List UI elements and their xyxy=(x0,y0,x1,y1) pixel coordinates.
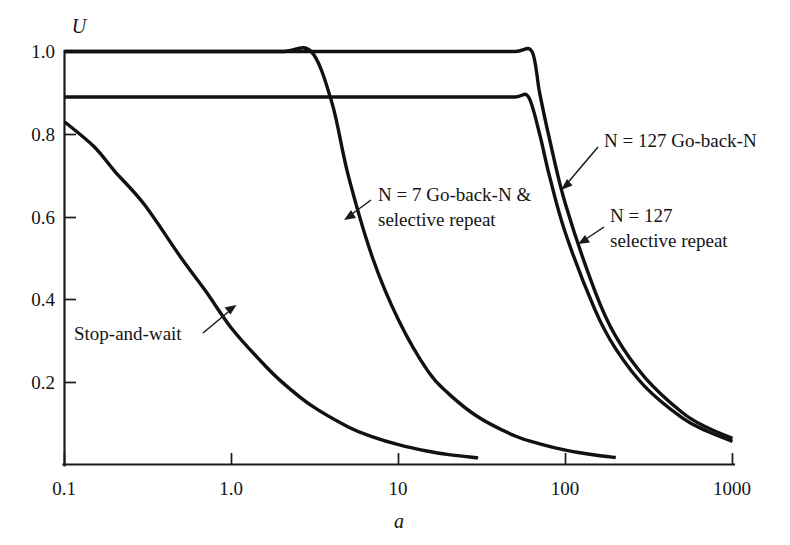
x-tick-label-100: 100 xyxy=(551,478,580,499)
annotation-n7-line-1: N = 7 Go-back-N & xyxy=(378,184,531,205)
y-tick-labels: 1.0 0.8 0.6 0.4 0.2 xyxy=(31,41,55,393)
annotation-stop-and-wait: Stop-and-wait xyxy=(74,305,237,344)
annotation-stop-and-wait-label: Stop-and-wait xyxy=(74,323,182,344)
annotation-n127-go-back-n-leader xyxy=(565,147,598,186)
annotation-n127-selective-repeat-line-1: N = 127 xyxy=(610,205,672,226)
x-axis-title: a xyxy=(394,510,404,532)
x-tick-label-10: 10 xyxy=(389,478,408,499)
y-tick-label-0.8: 0.8 xyxy=(31,124,55,145)
annotation-n127-go-back-n-label: N = 127 Go-back-N xyxy=(604,130,757,151)
x-tick-label-0.1: 0.1 xyxy=(52,478,76,499)
y-tick-label-0.4: 0.4 xyxy=(31,289,55,310)
chart-figure: 1.0 0.8 0.6 0.4 0.2 0.1 1.0 10 100 1000 … xyxy=(0,0,790,545)
annotation-n127-selective-repeat: N = 127 selective repeat xyxy=(578,205,728,251)
x-axis-ticks xyxy=(65,453,733,465)
x-tick-label-1.0: 1.0 xyxy=(219,478,243,499)
x-tick-labels: 0.1 1.0 10 100 1000 xyxy=(52,478,751,499)
annotation-n7-line-2: selective repeat xyxy=(378,209,496,230)
x-tick-label-1000: 1000 xyxy=(713,478,751,499)
annotation-n127-go-back-n-arrowhead xyxy=(561,179,573,190)
utilization-vs-a-line-chart: 1.0 0.8 0.6 0.4 0.2 0.1 1.0 10 100 1000 … xyxy=(0,0,790,545)
annotation-n127-go-back-n: N = 127 Go-back-N xyxy=(561,130,757,190)
y-tick-label-1.0: 1.0 xyxy=(31,41,55,62)
annotation-n127-selective-repeat-arrowhead xyxy=(578,235,590,244)
axes-group xyxy=(64,51,735,466)
y-tick-label-0.6: 0.6 xyxy=(31,207,55,228)
annotation-n127-selective-repeat-line-2: selective repeat xyxy=(610,230,728,251)
y-axis-title: U xyxy=(72,15,88,37)
annotation-n7-go-back-n: N = 7 Go-back-N & selective repeat xyxy=(344,184,531,230)
curve-stop-and-wait xyxy=(65,122,479,458)
curves-group xyxy=(65,48,733,458)
y-tick-label-0.2: 0.2 xyxy=(31,372,55,393)
